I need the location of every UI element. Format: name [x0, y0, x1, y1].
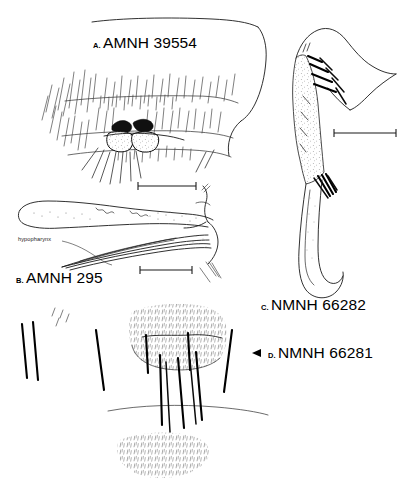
panel-id-d: NMNH 66281 — [278, 344, 373, 361]
panel-label-a: A.AMNH 39554 — [93, 35, 197, 51]
panel-a-central-organ — [104, 119, 184, 152]
panel-d-artwork — [22, 304, 268, 478]
panel-id-b: AMNH 295 — [26, 269, 103, 286]
panel-id-a: AMNH 39554 — [103, 34, 197, 51]
panel-label-c: C.NMNH 66282 — [261, 297, 366, 313]
panel-label-d: D.NMNH 66281 — [268, 345, 373, 361]
panel-letter-d: D. — [268, 351, 276, 360]
scale-bar-c — [334, 129, 396, 137]
panel-id-c: NMNH 66282 — [271, 296, 366, 313]
annotation-hypopharynx: hypopharynx — [18, 237, 51, 243]
figure-plate: .ol { fill:none; stroke:#1a1a1a; stroke-… — [0, 0, 404, 498]
illustration-artwork: .ol { fill:none; stroke:#1a1a1a; stroke-… — [0, 0, 404, 498]
panel-letter-c: C. — [261, 303, 269, 312]
panel-label-b: B.AMNH 295 — [16, 270, 103, 286]
panel-letter-b: B. — [16, 276, 24, 285]
panel-letter-a: A. — [93, 41, 101, 50]
panel-b-artwork — [18, 186, 221, 282]
panel-c-artwork — [293, 28, 396, 297]
arrowhead-icon — [252, 349, 261, 357]
scale-bar-a — [138, 182, 196, 190]
scale-bar-b — [140, 266, 192, 274]
